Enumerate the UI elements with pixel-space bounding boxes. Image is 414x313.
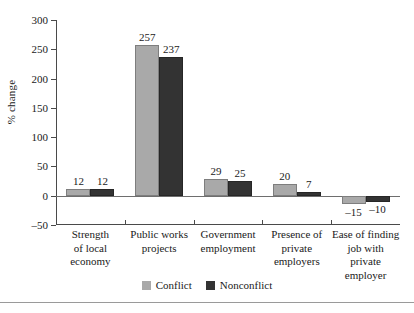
bar-value-label: –10 [369,203,386,215]
legend-label: Conflict [156,279,192,291]
category-label-line: Strength [52,228,128,242]
y-tick-label: 100 [32,131,49,143]
y-tick-label: 150 [32,102,49,114]
category-label-line: employment [190,242,266,256]
legend-item: Nonconflict [206,279,273,291]
bar-value-label: 20 [279,170,290,182]
bar-conflict [342,196,366,205]
category-label: Governmentemployment [190,228,266,255]
category-label-line: Government [190,228,266,242]
category-label: Strengthof localeconomy [52,228,128,269]
category-label-line: projects [121,242,197,256]
y-tick-label: –50 [32,219,49,231]
category-label-line: Ease of finding [328,228,404,242]
legend-swatch-icon [206,281,215,290]
bar-chart-figure: % change 300250200150100500–50 121225723… [0,0,414,313]
category-label: Ease of findingjob withprivateemployer [328,228,404,282]
bar-conflict [135,45,159,196]
category-label-line: employers [259,255,335,269]
category-label: Public worksprojects [121,228,197,255]
bar-nonconflict [90,189,114,196]
y-tick-mark [51,49,56,50]
bar-value-label: 257 [139,31,156,43]
y-tick-label: 250 [32,43,49,55]
y-tick-mark [51,20,56,21]
category-label-line: Public works [121,228,197,242]
category-label: Presence ofprivateemployers [259,228,335,269]
y-tick-mark [51,196,56,197]
category-label-line: job with [328,242,404,256]
bar-value-label: –15 [345,206,362,218]
bar-conflict [273,184,297,196]
legend-label: Nonconflict [220,279,273,291]
y-tick-mark [51,137,56,138]
y-tick-mark [51,166,56,167]
x-axis-line [56,224,400,225]
bar-value-label: 237 [163,43,180,55]
bar-nonconflict [228,181,252,196]
y-tick-mark [51,79,56,80]
bar-nonconflict [366,196,390,202]
chart-legend: ConflictNonconflict [0,279,414,291]
bar-value-label: 12 [97,175,108,187]
category-separator-tick [194,220,195,225]
legend-item: Conflict [142,279,192,291]
bottom-divider [0,302,414,303]
y-tick-mark [51,108,56,109]
bar-nonconflict [297,192,321,196]
bar-value-label: 29 [211,165,222,177]
category-label-line: of local [52,242,128,256]
legend-swatch-icon [142,281,151,290]
category-separator-tick [331,220,332,225]
y-tick-label: 50 [37,160,48,172]
y-tick-label: 300 [32,14,49,26]
y-tick-label: 200 [32,73,49,85]
bar-value-label: 7 [306,178,312,190]
bar-value-label: 25 [235,167,246,179]
category-separator-tick [125,220,126,225]
bar-value-label: 12 [73,175,84,187]
y-tick-label: 0 [43,190,49,202]
category-label-line: private [259,242,335,256]
plot-area: 300250200150100500–50 12122572372925207–… [56,20,400,225]
bar-conflict [66,189,90,196]
category-label-line: Presence of [259,228,335,242]
y-axis-line [56,20,57,225]
bar-nonconflict [159,57,183,196]
category-label-line: private [328,255,404,269]
category-separator-tick [262,220,263,225]
y-tick-mark [51,225,56,226]
bar-conflict [204,179,228,196]
y-axis-title: % change [5,63,17,141]
category-label-line: economy [52,255,128,269]
